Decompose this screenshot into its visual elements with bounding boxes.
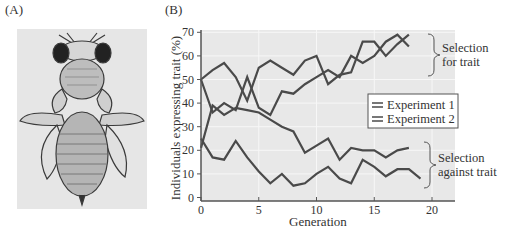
y-tick-label: 30 [182, 120, 194, 134]
line-chart: 010203040506070 05101520 Generation Indi… [0, 0, 519, 242]
x-axis-title: Generation [289, 214, 347, 229]
x-tick-label: 15 [368, 203, 380, 217]
y-tick-label: 70 [182, 25, 194, 39]
y-tick-label: 0 [188, 191, 194, 205]
annotation-text: Selection [438, 151, 485, 165]
y-ticks: 010203040506070 [182, 25, 201, 204]
x-tick-label: 5 [256, 203, 262, 217]
x-tick-label: 20 [426, 203, 438, 217]
y-axis-title: Individuals expressing trait (%) [168, 36, 183, 200]
x-tick-label: 0 [198, 203, 204, 217]
legend-label: Experiment 2 [387, 112, 455, 126]
annotation-text: Selection [442, 41, 489, 55]
y-tick-label: 60 [182, 49, 194, 63]
y-tick-label: 20 [182, 143, 194, 157]
legend: Experiment 1 Experiment 2 [368, 94, 458, 128]
legend-label: Experiment 1 [387, 98, 455, 112]
y-tick-label: 40 [182, 96, 194, 110]
y-tick-label: 10 [182, 167, 194, 181]
y-tick-label: 50 [182, 73, 194, 87]
annotation-text: against trait [438, 165, 497, 179]
annotation-text: for trait [442, 55, 480, 69]
